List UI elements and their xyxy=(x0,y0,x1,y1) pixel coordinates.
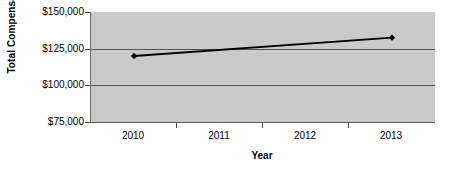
x-axis-tick-label: 2011 xyxy=(189,130,249,142)
x-axis-tick-mark xyxy=(262,123,263,128)
data-point-marker xyxy=(389,34,395,40)
x-axis-title: Year xyxy=(251,150,272,161)
y-axis-tick-label: $75,000 xyxy=(22,117,84,127)
plot-area xyxy=(90,12,435,123)
data-point-marker xyxy=(131,53,137,59)
y-axis-tick-label: $150,000 xyxy=(22,7,84,17)
y-axis-tick-label: $100,000 xyxy=(22,80,84,90)
series-line xyxy=(134,38,392,56)
y-axis-tick-labels: $150,000$125,000$100,000$75,000 xyxy=(20,0,84,175)
line-chart: Total Compensation $150,000$125,000$100,… xyxy=(0,0,452,175)
series-layer xyxy=(91,12,435,122)
x-axis-tick-mark xyxy=(348,123,349,128)
x-axis-tick-label: 2013 xyxy=(361,130,421,142)
x-axis-tick-mark xyxy=(176,123,177,128)
x-axis-tick-label: 2012 xyxy=(275,130,335,142)
x-axis-tick-label: 2010 xyxy=(103,130,163,142)
y-axis-tick-label: $125,000 xyxy=(22,44,84,54)
x-axis-title-container: Year xyxy=(0,150,452,161)
